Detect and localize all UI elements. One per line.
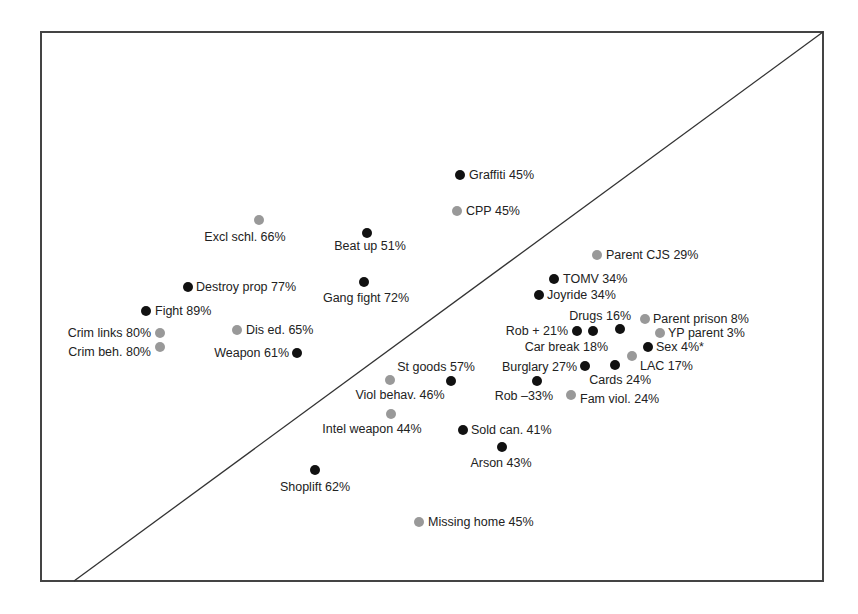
point-label: Destroy prop 77% (196, 280, 296, 294)
point-marker (640, 314, 650, 324)
point-marker (572, 326, 582, 336)
point-marker (310, 465, 320, 475)
point-label: Rob + 21% (506, 324, 568, 338)
point-label: Graffiti 45% (469, 168, 534, 182)
point-label: Missing home 45% (428, 515, 534, 529)
point-marker (643, 342, 653, 352)
point-marker (455, 170, 465, 180)
point-label: Viol behav. 46% (355, 388, 444, 402)
point-label: Drugs 16% (569, 309, 631, 323)
point-marker (627, 351, 637, 361)
point-label: Sex 4%* (656, 340, 704, 354)
point-marker (452, 206, 462, 216)
point-label: Beat up 51% (334, 239, 406, 253)
point-label: Dis ed. 65% (246, 323, 313, 337)
point-marker (155, 328, 165, 338)
data-point: Crim beh. 80% (68, 342, 165, 359)
point-marker (458, 425, 468, 435)
point-marker (532, 376, 542, 386)
point-marker (292, 348, 302, 358)
point-marker (655, 328, 665, 338)
point-label: TOMV 34% (563, 272, 627, 286)
point-label: YP parent 3% (668, 326, 745, 340)
point-marker (615, 324, 625, 334)
data-point: Crim links 80% (68, 326, 165, 340)
point-label: Parent prison 8% (653, 312, 749, 326)
point-marker (141, 306, 151, 316)
point-label: CPP 45% (466, 204, 520, 218)
point-marker (446, 376, 456, 386)
point-marker (414, 517, 424, 527)
point-label: Shoplift 62% (280, 480, 350, 494)
point-marker (359, 277, 369, 287)
point-marker (592, 250, 602, 260)
point-label: Arson 43% (470, 456, 531, 470)
point-label: Joyride 34% (547, 288, 616, 302)
point-label: Fam viol. 24% (580, 392, 659, 406)
data-point: Sold can. 41% (458, 423, 552, 437)
point-label: Rob –33% (495, 389, 553, 403)
point-label: Excl schl. 66% (204, 230, 285, 244)
data-point: Parent CJS 29% (592, 248, 698, 262)
data-point: Fam viol. 24% (566, 390, 659, 406)
point-marker (588, 326, 598, 336)
data-point: Joyride 34% (534, 288, 616, 302)
point-marker (610, 360, 620, 370)
point-label: Car break 18% (525, 340, 608, 354)
point-marker (232, 325, 242, 335)
point-label: LAC 17% (640, 359, 693, 373)
data-point: Missing home 45% (414, 515, 534, 529)
point-marker (183, 282, 193, 292)
point-marker (534, 290, 544, 300)
point-label: Weapon 61% (214, 346, 289, 360)
point-label: Crim links 80% (68, 326, 151, 340)
point-label: Crim beh. 80% (68, 345, 151, 359)
point-marker (580, 361, 590, 371)
data-point: YP parent 3% (655, 326, 745, 340)
point-label: Cards 24% (589, 373, 651, 387)
point-label: St goods 57% (397, 360, 475, 374)
point-marker (155, 342, 165, 352)
data-point: Weapon 61% (214, 346, 302, 360)
point-label: Sold can. 41% (471, 423, 552, 437)
data-point: Destroy prop 77% (183, 280, 296, 294)
data-point: Burglary 27% (502, 360, 590, 374)
point-marker (566, 390, 576, 400)
point-marker (254, 215, 264, 225)
data-point: Parent prison 8% (640, 312, 749, 326)
point-marker (362, 228, 372, 238)
point-marker (386, 409, 396, 419)
point-label: Intel weapon 44% (322, 422, 421, 436)
point-marker (549, 274, 559, 284)
point-label: Burglary 27% (502, 360, 577, 374)
point-marker (497, 442, 507, 452)
scatter-chart: Graffiti 45%CPP 45%Excl schl. 66%Beat up… (0, 0, 858, 614)
point-label: Gang fight 72% (323, 291, 409, 305)
point-label: Fight 89% (155, 304, 211, 318)
point-label: Parent CJS 29% (606, 248, 698, 262)
point-marker (385, 375, 395, 385)
